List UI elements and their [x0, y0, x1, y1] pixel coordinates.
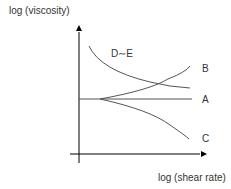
- x-axis-label: log (shear rate): [158, 172, 226, 183]
- y-axis-arrow-icon: [76, 25, 82, 31]
- curve-b: [100, 66, 190, 99]
- diagram-canvas: [0, 0, 231, 189]
- y-axis-label: log (viscosity): [9, 5, 70, 16]
- curve-b-label: B: [202, 63, 209, 74]
- curve-de-label: D∼E: [111, 48, 133, 59]
- curve-a-label: A: [202, 94, 209, 105]
- x-axis-arrow-icon: [201, 151, 207, 157]
- curve-c: [100, 99, 189, 139]
- curve-de: [89, 46, 190, 88]
- curve-c-label: C: [202, 133, 209, 144]
